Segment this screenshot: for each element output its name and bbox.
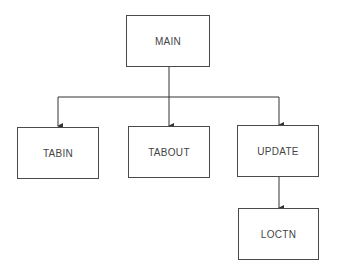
node-update-label: UPDATE bbox=[257, 146, 299, 157]
node-tabin: TABIN bbox=[17, 127, 99, 179]
node-tabout-label: TABOUT bbox=[148, 147, 190, 158]
node-loctn-label: LOCTN bbox=[261, 229, 296, 240]
node-main-label: MAIN bbox=[155, 36, 181, 47]
node-tabin-label: TABIN bbox=[43, 148, 73, 159]
node-loctn: LOCTN bbox=[238, 208, 319, 260]
node-update: UPDATE bbox=[237, 125, 319, 177]
node-tabout: TABOUT bbox=[128, 126, 210, 178]
node-main: MAIN bbox=[126, 15, 210, 67]
